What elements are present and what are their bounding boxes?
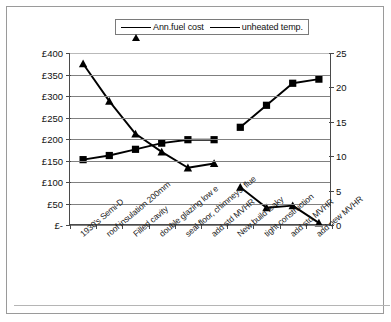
gridline [70,118,330,119]
right-axis-tick-label: 20 [336,82,347,93]
x-axis-tick [227,224,228,229]
square-marker-icon [158,140,165,147]
fuel-cost-existing-line [83,64,214,168]
triangle-marker-icon [132,24,140,34]
left-axis-tick-label: £- [55,220,63,231]
left-axis-tick-label: £200 [42,134,63,145]
gridline [70,161,330,162]
right-axis-labels: 2520151050 [332,53,391,225]
left-axis-tick-label: £250 [42,112,63,123]
left-axis-tick [66,118,71,119]
legend-label-unheated-temp: unheated temp. [242,22,303,32]
right-axis-tick [329,122,334,123]
left-axis-tick [66,204,71,205]
legend-line-unheated-temp [210,23,240,32]
square-marker-icon [237,124,244,131]
left-axis-tick [66,75,71,76]
triangle-marker-icon [79,60,87,68]
bottom-rule [14,305,390,306]
left-axis-tick [66,139,71,140]
legend-line-fuel-cost [121,23,151,32]
x-axis-tick [201,224,202,229]
right-axis-tick-label: 15 [336,116,347,127]
plot-top-border [70,53,330,54]
square-marker-icon [315,76,322,83]
legend-item-fuel-cost: Ann.fuel cost [121,22,204,32]
x-axis-tick [149,224,150,229]
right-axis-tick [329,87,334,88]
chart-frame: Ann.fuel cost unheated temp. £400£350£30… [6,6,384,314]
square-marker-icon [263,102,270,109]
x-axis-tick [70,224,71,229]
gridline [70,204,330,205]
chart-legend: Ann.fuel cost unheated temp. [115,19,309,35]
gridline [70,139,330,140]
gridline [70,225,330,226]
right-axis-tick-label: 25 [336,48,347,59]
left-axis-tick [66,96,71,97]
left-axis-tick-label: £350 [42,69,63,80]
x-axis-tick [280,224,281,229]
unheated-temp-newbuild-line [240,79,319,127]
square-marker-icon [132,146,139,153]
left-axis-tick-label: £400 [42,48,63,59]
left-axis-tick-label: £50 [47,198,63,209]
right-axis-tick [329,53,334,54]
chart-screenshot: Ann.fuel cost unheated temp. £400£350£30… [0,0,391,322]
right-axis-tick [329,191,334,192]
plot-area [69,53,331,225]
left-axis-tick-label: £100 [42,177,63,188]
gridline [70,75,330,76]
left-axis-tick [66,161,71,162]
left-axis-labels: £400£350£300£250£200£150£100£50£- [7,53,67,225]
gridline [70,182,330,183]
gridline [70,96,330,97]
legend-label-fuel-cost: Ann.fuel cost [153,22,204,32]
right-axis-tick-label: 10 [336,151,347,162]
x-axis-tick [306,224,307,229]
x-axis-tick [96,224,97,229]
square-marker-icon [106,152,113,159]
left-axis-tick-label: £150 [42,155,63,166]
triangle-marker-icon [236,183,244,191]
right-axis-tick-label: 5 [336,185,341,196]
x-axis-tick [175,224,176,229]
left-axis-tick [66,182,71,183]
x-axis-tick [122,224,123,229]
legend-item-unheated-temp: unheated temp. [210,22,303,32]
fuel-cost-newbuild-line [240,187,319,223]
left-axis-tick-label: £300 [42,91,63,102]
square-marker-icon [289,80,296,87]
x-axis-tick [253,224,254,229]
right-axis-tick-label: 0 [336,220,341,231]
x-axis-tick [332,224,333,229]
right-axis-tick [329,156,334,157]
